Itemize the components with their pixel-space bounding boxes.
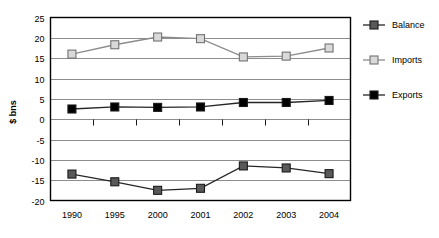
data-point-marker <box>68 105 76 113</box>
x-axis-tick-label: 1995 <box>105 210 125 220</box>
legend-item-balance[interactable]: Balance <box>363 20 425 30</box>
x-axis-tick-label: 2000 <box>148 210 168 220</box>
data-point-marker <box>282 98 290 106</box>
data-point-marker <box>197 184 205 192</box>
legend-marker <box>370 21 378 29</box>
data-point-marker <box>325 44 333 52</box>
data-point-marker <box>68 170 76 178</box>
y-axis-tick-label: 25 <box>34 14 44 24</box>
x-axis-tick-label: 2001 <box>190 210 210 220</box>
x-axis-tick-label: 2004 <box>319 210 339 220</box>
chart-background <box>0 0 439 238</box>
y-axis-tick-label: -20 <box>31 197 44 207</box>
data-point-marker <box>239 98 247 106</box>
y-axis-tick-label: 15 <box>34 54 44 64</box>
data-point-marker <box>68 50 76 58</box>
y-axis-tick-label: -10 <box>31 156 44 166</box>
chart-container: 2520151050-5-10-15-20 199019952000200120… <box>0 0 439 238</box>
data-point-marker <box>325 96 333 104</box>
legend-label: Exports <box>392 90 423 100</box>
y-axis-tick-label: -5 <box>36 136 44 146</box>
data-point-marker <box>325 170 333 178</box>
x-axis-tick-label: 2003 <box>276 210 296 220</box>
data-point-marker <box>282 52 290 60</box>
legend-label: Balance <box>392 20 425 30</box>
data-point-marker <box>154 33 162 41</box>
data-point-marker <box>239 162 247 170</box>
y-axis-tick-label: -15 <box>31 176 44 186</box>
data-point-marker <box>197 103 205 111</box>
data-point-marker <box>111 41 119 49</box>
data-point-marker <box>154 186 162 194</box>
y-axis-title-group: $ bns <box>8 100 18 124</box>
y-axis-tick-label: 0 <box>39 115 44 125</box>
y-axis-tick-label: 20 <box>34 34 44 44</box>
x-axis-tick-label: 2002 <box>233 210 253 220</box>
y-axis-title: $ bns <box>8 100 18 124</box>
legend-marker <box>370 91 378 99</box>
data-point-marker <box>154 103 162 111</box>
legend-item-exports[interactable]: Exports <box>363 90 423 100</box>
y-axis-tick-label: 10 <box>34 75 44 85</box>
legend-marker <box>370 56 378 64</box>
data-point-marker <box>111 103 119 111</box>
data-point-marker <box>111 178 119 186</box>
data-point-marker <box>239 53 247 61</box>
data-point-marker <box>197 35 205 43</box>
y-axis-tick-label: 5 <box>39 95 44 105</box>
data-point-marker <box>282 164 290 172</box>
legend-item-imports[interactable]: Imports <box>363 55 423 65</box>
legend-label: Imports <box>392 55 423 65</box>
x-axis-tick-label: 1990 <box>62 210 82 220</box>
line-chart: 2520151050-5-10-15-20 199019952000200120… <box>0 0 439 238</box>
